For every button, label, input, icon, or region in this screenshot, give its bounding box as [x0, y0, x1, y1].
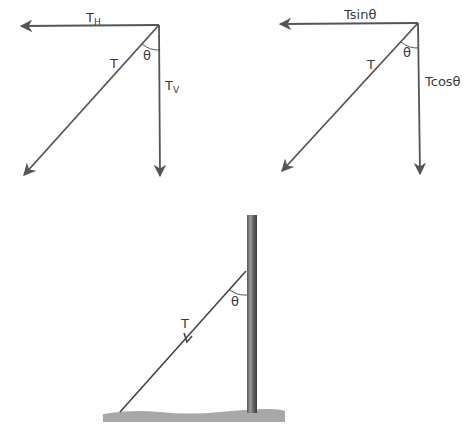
- resultant-label: T: [366, 57, 375, 72]
- vertical-label: TV: [164, 78, 180, 95]
- resultant-label: T: [109, 56, 118, 71]
- angle-label: θ: [231, 294, 239, 309]
- resultant-tension-arrow: [282, 23, 418, 171]
- tension-direction-arrow: [184, 333, 192, 342]
- diagram-canvas: TH T θ TV Tsinθ T θ Tcosθ T θ: [0, 0, 471, 433]
- angle-label: θ: [403, 45, 411, 60]
- horizontal-label: Tsinθ: [343, 7, 376, 22]
- component-diagram-trig: Tsinθ T θ Tcosθ: [280, 7, 461, 174]
- ground: [103, 409, 285, 422]
- horizontal-component-arrow: [280, 23, 418, 24]
- tension-label: T: [180, 316, 189, 331]
- pole: [247, 215, 257, 413]
- angle-label: θ: [143, 48, 151, 63]
- horizontal-label: TH: [85, 10, 101, 27]
- resultant-tension-arrow: [24, 25, 159, 175]
- vertical-label: Tcosθ: [424, 74, 461, 89]
- component-diagram-symbolic: TH T θ TV: [21, 10, 180, 176]
- vertical-component-arrow: [159, 25, 160, 176]
- pole-diagram: T θ: [103, 215, 285, 422]
- vertical-component-arrow: [418, 23, 420, 174]
- guy-wire: [120, 271, 246, 412]
- horizontal-component-arrow: [21, 25, 159, 26]
